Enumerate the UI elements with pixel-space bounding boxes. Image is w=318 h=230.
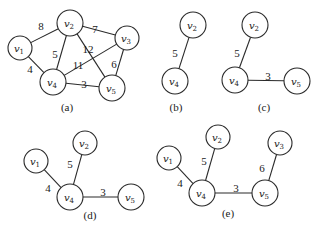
edge-weight-label: 5 [234,47,240,59]
edge-v2-v3 [83,26,116,35]
edge-weight-label: 11 [73,59,84,71]
edge-weight-label: 6 [259,162,265,174]
node-v4: v4 [162,68,188,94]
edge-weight-label: 3 [233,182,239,194]
panel-caption-a: (a) [61,101,74,114]
node-v4: v4 [222,67,248,93]
node-v2: v2 [206,125,230,149]
node-v1: v1 [24,149,48,173]
edge-weight-label: 4 [45,182,51,194]
node-v2: v2 [57,10,83,36]
edge-weight-label: 5 [52,48,58,60]
edge-v3-v5 [269,154,277,180]
edge-weight-label: 4 [177,177,183,189]
edge-v2-v4 [73,155,81,185]
node-v5: v5 [252,180,278,206]
node-v4: v4 [57,184,83,210]
edge-weight-label: 5 [172,47,178,59]
edge-weight-label: 12 [83,43,94,55]
edge-v2-v4 [206,149,215,181]
edge-weight-label: 5 [67,158,73,170]
node-v5: v5 [99,75,125,101]
edge-weight-label: 3 [265,70,271,82]
node-v1: v1 [157,146,181,170]
edge-weight-label: 8 [38,20,44,32]
node-v2: v2 [73,131,97,155]
edge-weight-label: 6 [111,58,117,70]
node-v5: v5 [118,184,144,210]
edge-v3-v5 [116,49,124,75]
node-v2: v2 [180,12,206,38]
node-v3: v3 [268,131,292,155]
panel-caption-d: (d) [84,209,97,222]
edge-v2-v4 [179,37,189,68]
node-v1: v1 [8,36,32,60]
edge-weight-label: 4 [27,63,33,75]
edge-v2-v4 [57,35,67,69]
graph-figure: v1v2v3v4v5v2v4v2v4v5v1v2v4v5v1v2v3v4v5 8… [0,0,318,230]
edge-weight-label: 3 [100,186,106,198]
edge-weight-label: 7 [92,23,98,35]
panel-caption-c: (c) [258,101,271,114]
node-v3: v3 [115,26,139,50]
edge-v2-v4 [239,37,250,68]
node-v2: v2 [242,12,268,38]
edge-v2-v5 [77,34,105,77]
panel-b [179,37,189,68]
edge-weight-label: 3 [81,78,87,90]
edge-v1-v2 [31,29,59,43]
node-v4: v4 [40,69,66,95]
node-v4: v4 [189,180,215,206]
panel-caption-e: (e) [222,207,235,220]
edge-weight-label: 5 [201,155,207,167]
panel-caption-b: (b) [170,101,183,114]
node-v5: v5 [284,68,310,94]
